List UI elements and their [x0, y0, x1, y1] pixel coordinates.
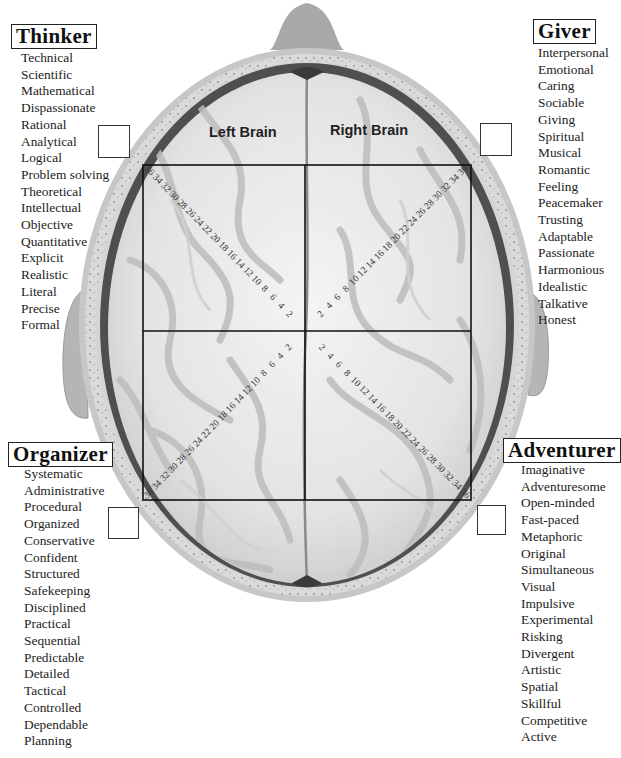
scale-tick-label: 4: [275, 350, 286, 361]
trait-item: Technical: [21, 50, 109, 67]
scale-tick-label: 2: [315, 309, 326, 320]
trait-item: Sociable: [538, 95, 609, 112]
trait-item: Conservative: [24, 533, 104, 550]
scale-tick-label: 6: [268, 292, 279, 303]
trait-item: Spatial: [521, 679, 606, 696]
scale-tick-label: 6: [332, 292, 343, 303]
trait-item: Disciplined: [24, 600, 104, 617]
trait-item: Spiritual: [538, 129, 609, 146]
scale-tick-label: 36: [459, 487, 473, 501]
trait-item: Interpersonal: [538, 45, 609, 62]
trait-item: Problem solving: [21, 167, 109, 184]
trait-item: Quantitative: [21, 234, 109, 251]
scale-tick-label: 6: [267, 359, 278, 370]
thinker-trait-list: TechnicalScientificMathematicalDispassio…: [21, 50, 109, 334]
trait-item: Dispassionate: [21, 100, 109, 117]
trait-item: Talkative: [538, 296, 609, 313]
trait-item: Giving: [538, 112, 609, 129]
trait-item: Predictable: [24, 650, 104, 667]
organizer-title: Organizer: [8, 442, 113, 467]
trait-item: Planning: [24, 733, 104, 750]
thinker-score-box[interactable]: [98, 125, 130, 158]
trait-item: Theoretical: [21, 184, 109, 201]
trait-item: Metaphoric: [521, 529, 606, 546]
trait-item: Literal: [21, 284, 109, 301]
scale-tick-label: 8: [260, 283, 271, 294]
trait-item: Harmonious: [538, 262, 609, 279]
trait-item: Practical: [24, 616, 104, 633]
trait-item: Confident: [24, 550, 104, 567]
trait-item: Honest: [538, 312, 609, 329]
trait-item: Structured: [24, 566, 104, 583]
right-brain-label: Right Brain: [330, 122, 408, 138]
trait-item: Rational: [21, 117, 109, 134]
adventurer-title: Adventurer: [503, 438, 621, 463]
trait-item: Sequential: [24, 633, 104, 650]
giver-score-box[interactable]: [480, 123, 512, 156]
trait-item: Administrative: [24, 483, 104, 500]
trait-item: Detailed: [24, 666, 104, 683]
adventurer-scale: 24681012141618202224262830323436: [317, 342, 473, 500]
scale-tick-label: 2: [317, 342, 328, 353]
trait-item: Competitive: [521, 713, 606, 730]
organizer-scale: 24681012141618202224262830323436: [142, 342, 294, 500]
trait-item: Controlled: [24, 700, 104, 717]
scale-tick-label: 8: [340, 283, 351, 294]
trait-item: Fast-paced: [521, 512, 606, 529]
trait-item: Original: [521, 546, 606, 563]
trait-item: Passionate: [538, 245, 609, 262]
thinker-title: Thinker: [11, 24, 97, 49]
trait-item: Visual: [521, 579, 606, 596]
trait-item: Realistic: [21, 267, 109, 284]
trait-item: Emotional: [538, 62, 609, 79]
trait-item: Divergent: [521, 646, 606, 663]
scale-tick-label: 6: [334, 359, 345, 370]
trait-item: Scientific: [21, 67, 109, 84]
trait-item: Imaginative: [521, 462, 606, 479]
scale-tick-label: 36: [456, 163, 470, 177]
scale-tick-label: 2: [284, 309, 295, 320]
trait-item: Trusting: [538, 212, 609, 229]
trait-item: Tactical: [24, 683, 104, 700]
trait-item: Intellectual: [21, 200, 109, 217]
trait-item: Objective: [21, 217, 109, 234]
trait-item: Organized: [24, 516, 104, 533]
adventurer-trait-list: ImaginativeAdventuresomeOpen-mindedFast-…: [521, 462, 606, 746]
adventurer-score-box[interactable]: [477, 505, 506, 535]
trait-item: Simultaneous: [521, 562, 606, 579]
trait-item: Caring: [538, 78, 609, 95]
trait-item: Formal: [21, 317, 109, 334]
trait-item: Precise: [21, 301, 109, 318]
scale-tick-label: 4: [325, 351, 336, 362]
trait-item: Explicit: [21, 250, 109, 267]
trait-item: Peacemaker: [538, 195, 609, 212]
scale-tick-label: 8: [342, 368, 353, 379]
trait-item: Feeling: [538, 179, 609, 196]
left-brain-label: Left Brain: [209, 124, 277, 140]
scale-tick-label: 10: [249, 375, 263, 389]
thinker-scale: 24681012141618202224262830323436: [143, 164, 295, 320]
trait-item: Logical: [21, 150, 109, 167]
trait-item: Idealistic: [538, 279, 609, 296]
giver-trait-list: InterpersonalEmotionalCaringSociableGivi…: [538, 45, 609, 329]
trait-item: Active: [521, 729, 606, 746]
scale-tick-label: 2: [283, 342, 294, 353]
trait-item: Artistic: [521, 662, 606, 679]
trait-item: Adventuresome: [521, 479, 606, 496]
trait-item: Mathematical: [21, 83, 109, 100]
trait-item: Experimental: [521, 612, 606, 629]
giver-scale: 24681012141618202224262830323436: [315, 163, 469, 319]
trait-item: Adaptable: [538, 229, 609, 246]
trait-item: Procedural: [24, 499, 104, 516]
scale-tick-label: 4: [276, 300, 287, 311]
scale-tick-label: 4: [324, 300, 335, 311]
trait-item: Romantic: [538, 162, 609, 179]
trait-item: Open-minded: [521, 495, 606, 512]
trait-item: Skillful: [521, 696, 606, 713]
trait-item: Systematic: [24, 466, 104, 483]
organizer-score-box[interactable]: [108, 507, 139, 539]
scale-tick-label: 8: [258, 368, 269, 379]
giver-title: Giver: [533, 19, 596, 44]
trait-item: Musical: [538, 145, 609, 162]
trait-item: Risking: [521, 629, 606, 646]
